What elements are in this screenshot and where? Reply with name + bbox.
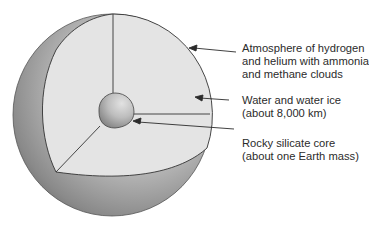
- atmosphere-label: Atmosphere of hydrogen and helium with a…: [242, 42, 369, 81]
- atmosphere-arrow-icon: [189, 45, 236, 52]
- atmosphere-label-line-1: Atmosphere of hydrogen: [242, 42, 369, 55]
- core-label: Rocky silicate core (about one Earth mas…: [242, 137, 359, 163]
- atmosphere-label-line-2: and helium with ammonia: [242, 55, 369, 68]
- mantle-cut-face: [42, 14, 212, 176]
- core-label-line-2: (about one Earth mass): [242, 150, 359, 163]
- water-label: Water and water ice (about 8,000 km): [242, 94, 341, 120]
- core-label-line-1: Rocky silicate core: [242, 137, 359, 150]
- water-label-line-1: Water and water ice: [242, 94, 341, 107]
- rocky-core: [99, 93, 134, 128]
- water-arrow-icon: [195, 95, 229, 101]
- atmosphere-label-line-3: and methane clouds: [242, 68, 369, 81]
- water-label-line-2: (about 8,000 km): [242, 107, 341, 120]
